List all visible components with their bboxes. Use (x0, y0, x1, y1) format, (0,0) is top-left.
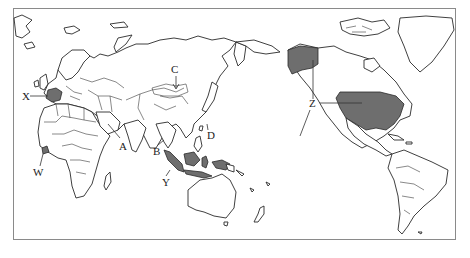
greenland-west-edge (14, 15, 32, 38)
iceland (24, 42, 35, 49)
falklands (418, 232, 422, 234)
france-highlight (46, 88, 62, 102)
new-zealand (254, 206, 264, 222)
java-highlight (184, 170, 212, 178)
leader-z-hawaii (300, 110, 310, 136)
australia (188, 174, 236, 218)
label-a: A (119, 141, 127, 152)
greenland (398, 16, 454, 72)
tasmania (224, 222, 228, 226)
label-y: Y (162, 177, 170, 188)
pacific-island (236, 170, 244, 176)
label-w: W (33, 167, 43, 178)
cuba (388, 134, 404, 140)
label-x: X (22, 91, 30, 102)
caribbean-islands (406, 142, 412, 144)
india (124, 120, 146, 152)
ireland (34, 80, 39, 87)
label-c: C (171, 64, 178, 75)
svalbard (64, 26, 80, 34)
papua-new-guinea (226, 164, 234, 172)
label-z: Z (309, 98, 316, 109)
sulawesi-highlight (202, 156, 208, 168)
world-map (0, 0, 470, 258)
taiwan (199, 126, 203, 131)
pacific-island (250, 188, 254, 192)
philippines (194, 136, 202, 152)
south-america (388, 150, 448, 234)
leader-w (40, 154, 43, 166)
madagascar (104, 172, 111, 190)
pacific-island (266, 182, 270, 186)
borneo-highlight (184, 152, 200, 166)
severnaya-zemlya (110, 22, 128, 28)
label-d: D (207, 130, 215, 141)
label-b: B (153, 146, 160, 157)
sumatra-highlight (164, 150, 184, 172)
